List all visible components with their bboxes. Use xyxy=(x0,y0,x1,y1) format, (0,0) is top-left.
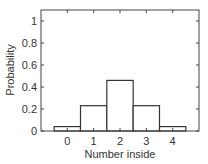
x-tick-label: 1 xyxy=(91,135,97,147)
x-axis-label: Number inside xyxy=(85,148,156,160)
probability-bar-chart: 00.20.40.60.81 01234 Number inside Proba… xyxy=(0,0,208,164)
y-tick-label: 0.4 xyxy=(22,81,37,93)
y-tick-label: 0.6 xyxy=(22,59,37,71)
y-tick-label: 0 xyxy=(31,125,37,137)
bars xyxy=(54,80,186,131)
y-tick-label: 0.2 xyxy=(22,103,37,115)
x-tick-label: 4 xyxy=(170,135,176,147)
bar-1 xyxy=(81,106,107,131)
bar-3 xyxy=(133,106,159,131)
x-tick-label: 3 xyxy=(143,135,149,147)
x-tick-label: 2 xyxy=(117,135,123,147)
y-axis-label: Probability xyxy=(4,44,16,96)
y-tick-label: 1 xyxy=(31,15,37,27)
bar-2 xyxy=(107,80,133,131)
x-tick-label: 0 xyxy=(64,135,70,147)
y-tick-label: 0.8 xyxy=(22,37,37,49)
